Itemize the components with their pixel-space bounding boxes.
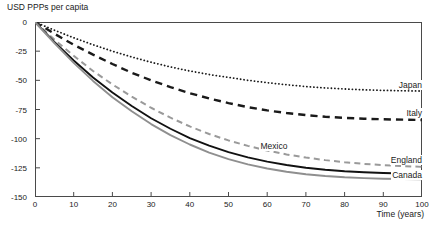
plot-area xyxy=(35,22,422,197)
chart-figure: USD PPPs per capita 0-25-50-75-100-125-1… xyxy=(0,0,432,231)
figure-caption xyxy=(6,224,426,231)
x-tick-label: 50 xyxy=(224,200,233,209)
x-tick-label: 40 xyxy=(185,200,194,209)
y-tick-label: -150 xyxy=(0,193,27,202)
series-label-england: England xyxy=(390,155,423,165)
y-tick-label: -50 xyxy=(0,76,27,85)
plot-svg xyxy=(35,22,422,197)
series-label-mexico: Mexico xyxy=(259,141,288,151)
plot-frame xyxy=(36,23,422,197)
x-tick-label: 10 xyxy=(69,200,78,209)
y-axis-title: USD PPPs per capita xyxy=(7,2,88,12)
x-tick-label: 80 xyxy=(340,200,349,209)
y-tick-label: 0 xyxy=(0,18,27,27)
x-tick-label: 90 xyxy=(379,200,388,209)
y-tick-label: -75 xyxy=(0,105,27,114)
series-label-japan: Japan xyxy=(398,80,423,90)
x-tick-label: 30 xyxy=(147,200,156,209)
x-axis-title: Time (years) xyxy=(377,209,424,219)
y-tick-label: -25 xyxy=(0,47,27,56)
y-tick-label: -100 xyxy=(0,134,27,143)
y-tick-label: -125 xyxy=(0,163,27,172)
x-tick-label: 100 xyxy=(415,200,428,209)
series-label-canada: Canada xyxy=(391,170,423,180)
x-tick-label: 0 xyxy=(33,200,37,209)
x-tick-label: 70 xyxy=(301,200,310,209)
x-tick-label: 60 xyxy=(263,200,272,209)
x-tick-label: 20 xyxy=(108,200,117,209)
series-label-italy: Italy xyxy=(405,108,423,118)
